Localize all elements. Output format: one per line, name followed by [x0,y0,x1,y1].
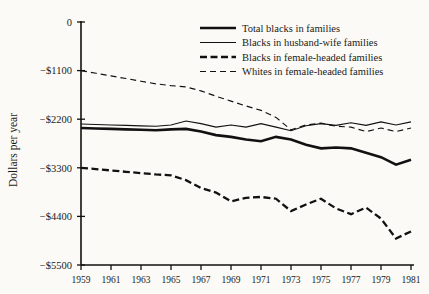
x-tick-label: 1971 [252,275,271,285]
y-tick-label: −$1100 [40,65,72,76]
series-group [81,71,411,239]
legend-label-3: Whites in female-headed families [242,66,383,77]
chart-container: Dollars per year 0−$1100−$2200−$3300−$44… [0,0,429,294]
legend-label-2: Blacks in female-headed families [242,52,382,63]
chart-legend: Total blacks in familiesBlacks in husban… [200,23,383,78]
legend-label-0: Total blacks in families [242,23,340,34]
y-axis-ticks: 0−$1100−$2200−$3300−$4400−$5500 [40,17,85,271]
x-tick-label: 1973 [282,275,301,285]
x-tick-label: 1979 [372,275,391,285]
series-line-0 [81,128,411,165]
y-tick-label: −$2200 [40,114,72,125]
x-tick-label: 1961 [102,275,121,285]
y-tick-label: −$5500 [40,260,72,271]
x-tick-label: 1977 [342,275,361,285]
legend-label-1: Blacks in husband-wife families [242,37,378,48]
series-line-3 [81,71,411,132]
y-tick-label: −$3300 [40,163,72,174]
x-axis-ticks: 1959196119631965196719691971197319751977… [72,265,421,285]
x-tick-label: 1981 [402,275,421,285]
y-tick-label: 0 [67,17,72,28]
x-tick-label: 1969 [222,275,241,285]
y-axis-title: Dollars per year [7,113,20,187]
x-tick-label: 1975 [312,275,331,285]
x-tick-label: 1963 [132,275,151,285]
series-line-2 [81,168,411,239]
x-tick-label: 1959 [72,275,91,285]
x-tick-label: 1965 [162,275,181,285]
y-axis-title-group: Dollars per year [7,113,20,187]
line-chart: Dollars per year 0−$1100−$2200−$3300−$44… [0,0,429,294]
y-tick-label: −$4400 [40,211,72,222]
x-tick-label: 1967 [192,275,211,285]
